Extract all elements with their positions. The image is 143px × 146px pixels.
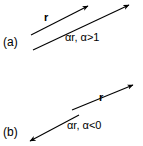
label-r-panel-b: r: [99, 92, 103, 103]
label-alpha-r-panel-a: αr, α>1: [65, 32, 99, 43]
panel-a-tag: (a): [3, 36, 18, 48]
vector-scaling-diagram: (a) r αr, α>1 (b) r αr, α<0: [0, 0, 143, 146]
panel-b-arrows: [30, 85, 133, 141]
panel-b-tag: (b): [3, 126, 18, 138]
label-alpha-r-panel-b: αr, α<0: [67, 120, 101, 131]
label-r-panel-a: r: [44, 12, 48, 23]
